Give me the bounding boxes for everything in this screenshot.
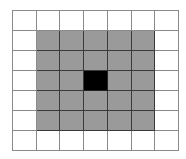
- gray-cell: [132, 71, 156, 91]
- white-cell: [13, 11, 37, 31]
- gray-cell: [37, 51, 61, 71]
- white-cell: [155, 131, 179, 151]
- white-cell: [132, 11, 156, 31]
- gray-cell: [60, 71, 84, 91]
- gray-cell: [37, 31, 61, 51]
- gray-cell: [37, 111, 61, 131]
- white-cell: [155, 91, 179, 111]
- gray-cell: [60, 111, 84, 131]
- pixel-grid: [12, 10, 179, 151]
- white-cell: [155, 11, 179, 31]
- white-cell: [37, 131, 61, 151]
- white-cell: [13, 71, 37, 91]
- gray-cell: [108, 31, 132, 51]
- white-cell: [155, 31, 179, 51]
- gray-cell: [108, 51, 132, 71]
- white-cell: [13, 111, 37, 131]
- white-cell: [37, 11, 61, 31]
- white-cell: [132, 131, 156, 151]
- gray-cell: [132, 91, 156, 111]
- gray-cell: [84, 51, 108, 71]
- white-cell: [155, 71, 179, 91]
- black-center-cell: [84, 71, 108, 91]
- gray-cell: [108, 111, 132, 131]
- gray-cell: [60, 91, 84, 111]
- gray-cell: [60, 51, 84, 71]
- gray-cell: [84, 91, 108, 111]
- white-cell: [84, 11, 108, 31]
- white-cell: [13, 51, 37, 71]
- white-cell: [108, 11, 132, 31]
- gray-cell: [60, 31, 84, 51]
- gray-cell: [37, 71, 61, 91]
- white-cell: [108, 131, 132, 151]
- gray-cell: [84, 111, 108, 131]
- white-cell: [60, 11, 84, 31]
- gray-cell: [37, 91, 61, 111]
- white-cell: [13, 131, 37, 151]
- gray-cell: [108, 71, 132, 91]
- white-cell: [13, 91, 37, 111]
- gray-cell: [108, 91, 132, 111]
- white-cell: [84, 131, 108, 151]
- gray-cell: [132, 31, 156, 51]
- gray-cell: [132, 111, 156, 131]
- white-cell: [60, 131, 84, 151]
- gray-cell: [84, 31, 108, 51]
- white-cell: [155, 51, 179, 71]
- gray-cell: [132, 51, 156, 71]
- white-cell: [155, 111, 179, 131]
- white-cell: [13, 31, 37, 51]
